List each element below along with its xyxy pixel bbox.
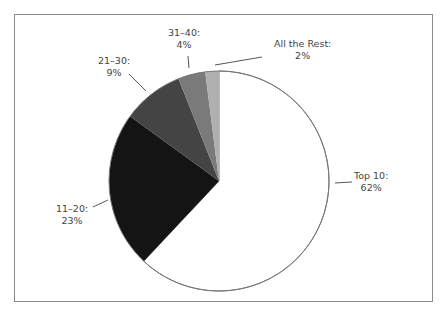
label-11-20: 11–20: 23% xyxy=(56,203,88,227)
label-top-10-value: 62% xyxy=(354,182,388,194)
leader-line xyxy=(335,182,352,183)
label-all-the-rest-value: 2% xyxy=(274,50,331,62)
label-all-the-rest: All the Rest: 2% xyxy=(274,38,331,62)
label-11-20-name: 11–20: xyxy=(56,203,88,215)
label-21-30-name: 21–30: xyxy=(98,55,130,67)
label-31-40: 31–40: 4% xyxy=(168,27,200,51)
pie-chart xyxy=(0,0,446,317)
label-31-40-value: 4% xyxy=(168,39,200,51)
leader-line xyxy=(93,200,108,207)
label-11-20-value: 23% xyxy=(56,215,88,227)
label-21-30: 21–30: 9% xyxy=(98,55,130,79)
leader-line xyxy=(129,74,146,91)
label-31-40-name: 31–40: xyxy=(168,27,200,39)
label-top-10-name: Top 10: xyxy=(354,170,388,182)
leader-line xyxy=(215,57,262,65)
label-all-the-rest-name: All the Rest: xyxy=(274,38,331,50)
leader-line xyxy=(188,56,189,68)
label-21-30-value: 9% xyxy=(98,67,130,79)
label-top-10: Top 10: 62% xyxy=(354,170,388,194)
